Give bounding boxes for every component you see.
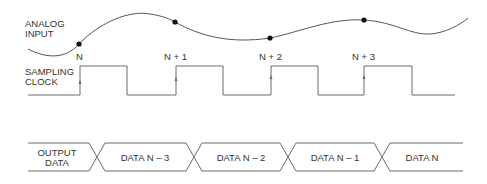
- rising-edge-arrow-icon: [270, 75, 273, 79]
- rising-edge-arrow-icon: [363, 75, 366, 79]
- rising-edge-arrow-icon: [79, 80, 82, 84]
- sample-point-n-plus-3: [361, 17, 366, 22]
- sample-label-n-plus-2: N + 2: [259, 51, 282, 62]
- analog-input-label-line2: INPUT: [25, 28, 54, 39]
- timing-diagram: ANALOG INPUT N N + 1 N + 2 N + 3 SAMPLIN…: [0, 0, 487, 184]
- sample-point-n-plus-1: [172, 19, 177, 24]
- sample-label-n-plus-3: N + 3: [352, 51, 375, 62]
- data-segment-label: DATA N – 2: [217, 152, 266, 163]
- sample-point-n-plus-2: [267, 35, 272, 40]
- data-segment-label: DATA N – 1: [311, 152, 360, 163]
- analog-input-waveform: [28, 13, 468, 56]
- output-data-label-line2: DATA: [45, 157, 70, 168]
- data-segment-label: DATA N – 3: [121, 152, 170, 163]
- sampling-clock-label-line2: CLOCK: [25, 76, 58, 87]
- sampling-clock-waveform: [28, 66, 455, 95]
- sample-label-n-plus-1: N + 1: [164, 51, 187, 62]
- data-segment-label: DATA N: [406, 152, 439, 163]
- sample-label-n: N: [76, 51, 83, 62]
- rising-edge-arrow-icon: [175, 77, 178, 81]
- sample-point-n: [76, 41, 81, 46]
